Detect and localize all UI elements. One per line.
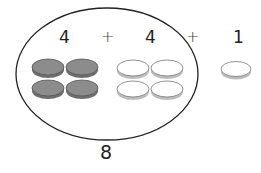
- counter-white: [117, 81, 149, 100]
- counter-white: [221, 62, 251, 80]
- term-1: 4: [59, 29, 70, 46]
- counter-shaded: [66, 80, 98, 99]
- term-2: 4: [145, 29, 156, 46]
- counter-white: [117, 60, 149, 79]
- plus-sign-2: +: [186, 29, 199, 45]
- term-3: 1: [233, 29, 244, 46]
- counter-shaded: [32, 80, 64, 99]
- diagram-canvas: [0, 0, 261, 173]
- counter-white: [151, 60, 183, 79]
- group-total: 8: [100, 143, 112, 162]
- counter-shaded: [32, 59, 64, 78]
- counter-white: [151, 81, 183, 100]
- plus-sign-1: +: [101, 29, 114, 45]
- counter-shaded: [66, 59, 98, 78]
- white-counters: [117, 60, 251, 100]
- shaded-counters: [32, 59, 98, 99]
